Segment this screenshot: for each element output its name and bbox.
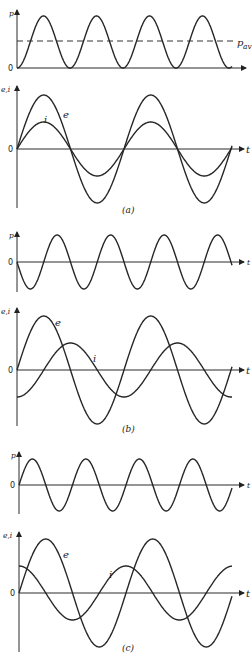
x-axis-label: t — [247, 258, 251, 267]
voltage-label: e — [63, 549, 69, 560]
origin-label: 0 — [10, 589, 15, 598]
origin-label: 0 — [8, 258, 13, 267]
power-plot-c: p0t — [10, 451, 251, 514]
current-label: i — [109, 569, 112, 580]
voltage-label: e — [55, 317, 61, 328]
x-axis-label: t — [246, 144, 251, 155]
y-axis-label: e,i — [3, 531, 13, 540]
y-axis-label: e,i — [1, 85, 11, 94]
voltage-current-plot-b: eie,i0t — [1, 307, 251, 426]
current-label: i — [93, 353, 96, 364]
y-axis-label: p — [11, 451, 16, 460]
power-plot-a: pavp0 — [8, 9, 252, 73]
origin-label: 0 — [8, 366, 13, 375]
current-label: i — [44, 114, 47, 125]
voltage-current-plot-a: eie,i0t — [1, 85, 251, 208]
average-power-subscript: av — [243, 42, 252, 51]
y-axis-label: p — [9, 231, 14, 240]
power-curve — [17, 16, 232, 68]
panel-c: p0teie,i0t(c) — [3, 451, 251, 653]
y-axis-label: e,i — [1, 307, 11, 316]
panel-caption: (c) — [122, 643, 135, 653]
x-axis-label: t — [246, 588, 251, 599]
origin-label: 0 — [8, 145, 13, 154]
power-plot-b: p0t — [8, 231, 251, 292]
panel-b: p0teie,i0t(b) — [1, 231, 251, 434]
y-axis-label: p — [9, 9, 14, 18]
origin-label: 0 — [8, 64, 13, 73]
x-axis-label: t — [246, 365, 251, 376]
waveform-figure: pavp0eie,i0t(a)p0teie,i0t(b)p0teie,i0t(c… — [0, 0, 252, 656]
panel-caption: (b) — [122, 424, 135, 434]
panel-caption: (a) — [122, 205, 135, 215]
origin-label: 0 — [10, 481, 15, 490]
panel-a: pavp0eie,i0t(a) — [1, 9, 252, 215]
voltage-current-plot-c: eie,i0t — [3, 531, 251, 652]
x-axis-label: t — [247, 481, 251, 490]
voltage-label: e — [63, 109, 69, 120]
